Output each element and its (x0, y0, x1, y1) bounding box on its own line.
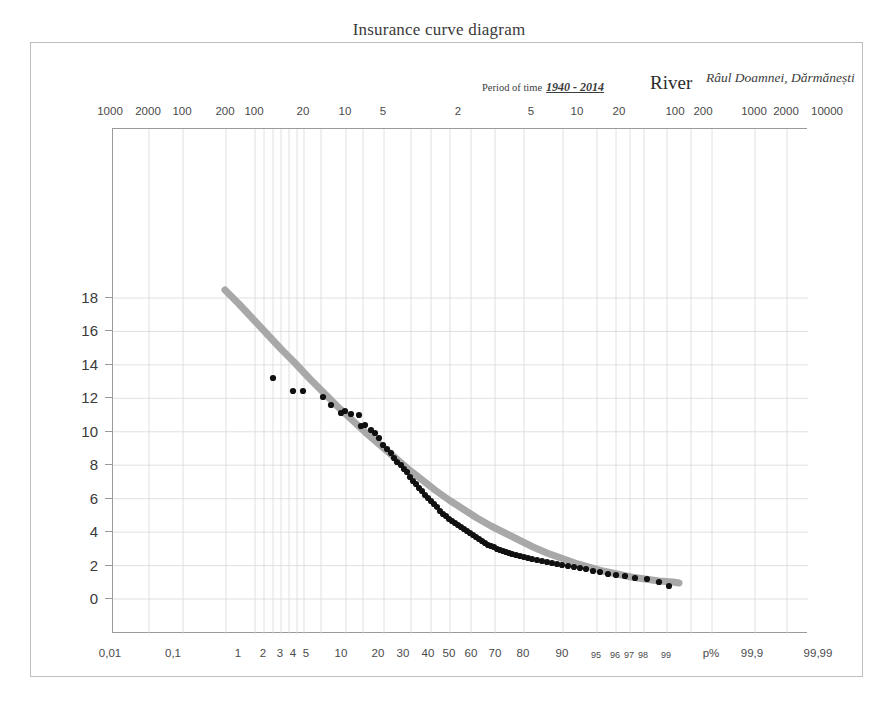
data-point (622, 573, 628, 579)
top-axis-tick-label: 1000 (97, 105, 123, 117)
top-axis-tick-label: 100 (244, 105, 263, 117)
insurance-curve-chart (113, 129, 808, 634)
y-tick-label: 0 (0, 590, 98, 607)
data-point (342, 408, 348, 414)
river-label: River (650, 72, 692, 94)
y-tick-mark (105, 431, 112, 432)
data-point (632, 575, 638, 581)
y-tick-mark (105, 297, 112, 298)
chart-plot-area (112, 128, 807, 633)
bottom-axis-tick-label: 0,01 (99, 647, 121, 659)
data-point (666, 583, 672, 589)
y-tick-mark (105, 531, 112, 532)
bottom-axis-tick-label: 90 (556, 647, 569, 659)
top-axis-tick-label: 5 (528, 105, 534, 117)
bottom-axis-tick-label: 96 (610, 650, 620, 660)
bottom-axis-tick-label: 30 (397, 647, 410, 659)
bottom-axis-tick-label: 80 (517, 647, 530, 659)
y-tick-label: 8 (0, 456, 98, 473)
y-tick-mark (105, 498, 112, 499)
y-tick-label: 14 (0, 355, 98, 372)
top-axis-tick-label: 1000 (741, 105, 767, 117)
data-point (320, 394, 326, 400)
period-value: 1940 - 2014 (546, 80, 604, 94)
bottom-axis-tick-label: 70 (489, 647, 502, 659)
y-tick-label: 2 (0, 556, 98, 573)
y-tick-mark (105, 364, 112, 365)
top-axis-tick-label: 100 (172, 105, 191, 117)
y-tick-label: 10 (0, 422, 98, 439)
top-axis-tick-label: 20 (613, 105, 626, 117)
bottom-axis-tick-label: 99,9 (741, 647, 763, 659)
river-value: Râul Doamnei, Dărmănești (706, 70, 856, 87)
bottom-axis-tick-label: 97 (624, 650, 634, 660)
bottom-axis-tick-label: 3 (277, 647, 283, 659)
top-axis-tick-label: 2 (455, 105, 461, 117)
top-axis-tick-label: 200 (215, 105, 234, 117)
y-tick-label: 12 (0, 389, 98, 406)
data-point (356, 412, 362, 418)
y-tick-label: 18 (0, 289, 98, 306)
top-axis-tick-label: 100 (665, 105, 684, 117)
y-tick-label: 4 (0, 523, 98, 540)
data-point (613, 572, 619, 578)
data-point (644, 576, 650, 582)
bottom-axis-tick-label: 5 (303, 647, 309, 659)
data-point (270, 375, 276, 381)
data-point (348, 411, 354, 417)
period-label: Period of time (482, 82, 542, 93)
bottom-axis-tick-label: 60 (465, 647, 478, 659)
bottom-axis-tick-label: 40 (422, 647, 435, 659)
y-axis-title: Water flowm3/s (0, 128, 8, 308)
top-axis-tick-label: 10000 (811, 105, 843, 117)
top-axis-tick-label: 2000 (135, 105, 161, 117)
y-tick-mark (105, 598, 112, 599)
data-point (597, 569, 603, 575)
vertical-gridlines (149, 129, 787, 634)
x-axis-unit-label: p% (703, 647, 720, 659)
bottom-axis-tick-label: 1 (235, 647, 241, 659)
bottom-axis-tick-label: 98 (638, 650, 648, 660)
bottom-axis-tick-label: 99,99 (804, 647, 833, 659)
data-point (565, 563, 571, 569)
data-point (605, 571, 611, 577)
fit-curve (225, 290, 679, 583)
data-point (577, 565, 583, 571)
data-point (583, 566, 589, 572)
bottom-axis-tick-label: 99 (661, 650, 671, 660)
data-point (300, 388, 306, 394)
data-point (559, 562, 565, 568)
top-axis-tick-label: 5 (380, 105, 386, 117)
horizontal-gridlines (113, 298, 808, 599)
data-point (290, 388, 296, 394)
bottom-axis-tick-label: 4 (290, 647, 296, 659)
data-point (372, 430, 378, 436)
bottom-axis-tick-label: 0,1 (165, 647, 181, 659)
data-point (590, 568, 596, 574)
bottom-axis-tick-label: 2 (260, 647, 266, 659)
y-tick-label: 16 (0, 322, 98, 339)
y-tick-mark (105, 464, 112, 465)
top-axis-tick-label: 2000 (773, 105, 799, 117)
top-axis-tick-label: 200 (693, 105, 712, 117)
data-point (328, 402, 334, 408)
top-axis-tick-label: 20 (297, 105, 310, 117)
data-point (376, 435, 382, 441)
top-axis-tick-label: 10 (339, 105, 352, 117)
top-axis-tick-label: 10 (571, 105, 584, 117)
y-tick-mark (105, 330, 112, 331)
data-point (362, 422, 368, 428)
data-point (571, 564, 577, 570)
data-point (656, 579, 662, 585)
period-of-time: Period of time1940 - 2014 (482, 80, 604, 95)
y-tick-mark (105, 397, 112, 398)
y-tick-mark (105, 565, 112, 566)
bottom-axis-tick-label: 10 (335, 647, 348, 659)
page-title: Insurance curve diagram (0, 20, 878, 40)
bottom-axis-tick-label: 95 (591, 650, 601, 660)
bottom-axis-tick-label: 50 (443, 647, 456, 659)
y-tick-label: 6 (0, 489, 98, 506)
bottom-axis-tick-label: 20 (372, 647, 385, 659)
